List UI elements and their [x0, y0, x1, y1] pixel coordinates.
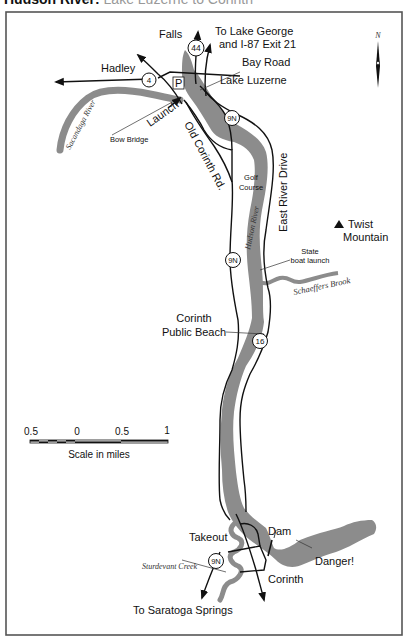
- route-shield-4: 4: [142, 73, 156, 87]
- label-sturdevant-creek: Sturdevant Creek: [142, 562, 198, 571]
- label-beach-2: Public Beach: [162, 326, 226, 338]
- label-to-lake-george-2: and I-87 Exit 21: [219, 38, 296, 50]
- label-twist-1: Twist: [348, 218, 373, 230]
- route-shield-9n-mid: 9N: [226, 253, 241, 268]
- svg-text:9N: 9N: [228, 256, 238, 265]
- label-bay-road: Bay Road: [242, 56, 290, 68]
- label-hadley: Hadley: [101, 62, 136, 74]
- label-bow-bridge: Bow Bridge: [110, 135, 148, 144]
- label-golf-2: Course: [239, 183, 263, 192]
- label-state-1: State: [301, 247, 319, 256]
- route-shield-9n-north: 9N: [225, 111, 240, 126]
- label-takeout: Takeout: [189, 531, 228, 543]
- label-danger: Danger!: [315, 555, 354, 567]
- label-falls: Falls: [159, 28, 183, 40]
- label-to-lake-george-1: To Lake George: [215, 25, 293, 37]
- svg-text:0.5: 0.5: [24, 426, 38, 437]
- route-shield-44: 44: [188, 40, 204, 56]
- label-east-river-drive: East River Drive: [277, 153, 289, 232]
- svg-text:44: 44: [191, 43, 201, 53]
- svg-text:4: 4: [147, 76, 152, 85]
- svg-text:9N: 9N: [211, 557, 221, 566]
- route-shield-9n-south: 9N: [209, 554, 224, 569]
- river-map: P 44 4 9N 9N 16 9N Falls To Lake George …: [0, 0, 409, 642]
- svg-text:N: N: [374, 31, 381, 40]
- label-lake-luzerne: Lake Luzerne: [220, 74, 287, 86]
- label-twist-2: Mountain: [343, 231, 388, 243]
- svg-text:16: 16: [256, 337, 265, 346]
- svg-text:0: 0: [74, 426, 80, 437]
- label-state-2: boat launch: [291, 256, 330, 265]
- svg-text:0.5: 0.5: [115, 426, 129, 437]
- label-to-saratoga: To Saratoga Springs: [133, 604, 233, 616]
- svg-text:1: 1: [164, 425, 170, 436]
- parking-label: P: [175, 77, 182, 89]
- label-dam: Dam: [268, 525, 291, 537]
- label-golf-1: Golf: [244, 173, 259, 182]
- label-corinth: Corinth: [268, 573, 303, 585]
- label-beach-1: Corinth: [176, 312, 211, 324]
- scale-caption: Scale in miles: [68, 449, 130, 460]
- route-shield-16: 16: [253, 334, 268, 349]
- svg-text:9N: 9N: [227, 114, 237, 123]
